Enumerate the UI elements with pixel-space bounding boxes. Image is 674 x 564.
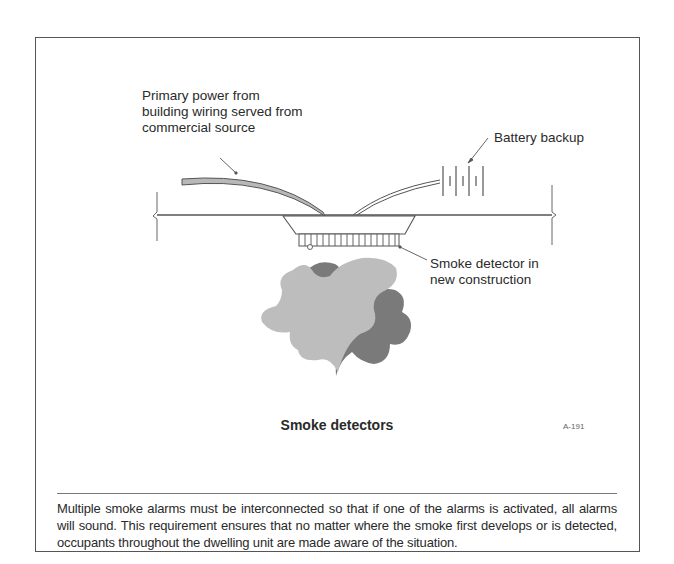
description-text: Multiple smoke alarms must be interconne… [57,500,617,551]
smoke-detector-label-line-1: Smoke detector in [430,256,539,272]
smoke-detector-icon [283,216,415,250]
battery-backup-label: Battery backup [494,130,584,146]
primary-power-label-line-2: building wiring served from [142,104,303,120]
primary-power-label-line-3: commercial source [142,120,303,136]
battery-icon [443,166,483,196]
smoke-detector-label: Smoke detector in new construction [430,256,539,288]
smoke-detector-diagram [0,0,674,564]
primary-power-cable [182,178,325,216]
smoke-cloud-icon [261,258,411,376]
figure-code: A-191 [563,422,584,431]
primary-power-label: Primary power from building wiring serve… [142,88,303,136]
smoke-detector-label-line-2: new construction [430,272,539,288]
divider [57,493,617,494]
battery-cable [353,180,440,215]
primary-power-label-line-1: Primary power from [142,88,303,104]
